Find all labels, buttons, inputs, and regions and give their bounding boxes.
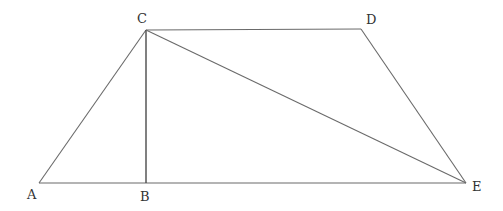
- segments-group: [39, 29, 466, 183]
- segment-cd: [146, 29, 361, 30]
- point-label-b: B: [140, 189, 150, 204]
- point-label-a: A: [26, 187, 37, 202]
- segment-ce: [146, 30, 466, 183]
- geometry-diagram: A B C D E: [0, 0, 503, 211]
- segment-ac: [39, 30, 146, 183]
- segment-de: [361, 29, 466, 183]
- point-label-c: C: [137, 11, 147, 26]
- labels-group: A B C D E: [26, 11, 482, 204]
- point-label-e: E: [472, 179, 482, 194]
- point-label-d: D: [366, 12, 376, 27]
